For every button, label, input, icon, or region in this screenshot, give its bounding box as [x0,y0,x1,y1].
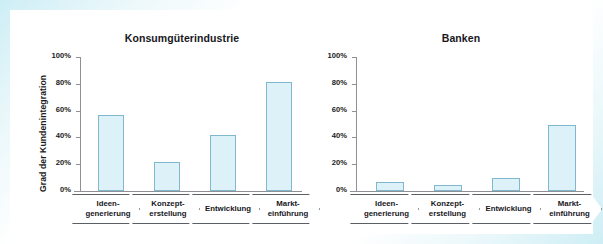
figure-frame: Konsumgüterindustrie Grad der Kundeninte… [0,0,603,244]
stage-label-left-1-line2: erstellung [149,209,186,219]
stage-label-left-3-line1: Markt- [268,199,309,209]
stage-label-right-0-line1: Ideen- [364,199,409,209]
y-tick-label-80-right: 80% [332,78,347,87]
stage-label-left-3-line2: einführung [268,209,309,219]
stage-chevron-right-3[interactable]: Markt- einführung [533,194,602,224]
stage-label-left-1-line1: Konzept- [149,199,186,209]
stage-label-right-2-line1: Entwicklung [486,204,532,214]
stage-chevron-right-0[interactable]: Ideen- generierung [350,194,419,224]
bar-right-2 [492,178,520,191]
y-tick-label-100-right: 100% [328,51,347,60]
process-stages-left: Ideen- generierung Konzept- erstellung E… [72,194,312,224]
y-tick-label-40-left: 40% [56,131,71,140]
bar-left-1 [154,162,180,191]
chart-panel-banken: Banken 100% 80% 60% 40% 20% [310,10,590,234]
y-tick-label-40-right: 40% [332,131,347,140]
chart-title-left: Konsumgüterindustrie [28,32,308,44]
y-tick-0-left: 0% [76,191,81,192]
y-tick-20-right: 20% [352,164,357,165]
y-axis-label-left: Grad der Kundenintegration [38,52,52,192]
process-stages-right: Ideen- generierung Konzept- erstellung E… [350,194,594,224]
stage-chevron-left-1[interactable]: Konzept- erstellung [132,194,200,224]
figure-canvas: Konsumgüterindustrie Grad der Kundeninte… [10,10,593,234]
y-tick-label-20-right: 20% [332,158,347,167]
y-tick-label-60-right: 60% [332,105,347,114]
x-axis-line-right [350,191,584,192]
y-tick-40-right: 40% [352,137,357,138]
stage-label-right-1-line1: Konzept- [429,199,466,209]
stage-label-left-0-line2: generierung [85,209,130,219]
plot-area-right: 100% 80% 60% 40% 20% 0% [356,57,576,191]
y-tick-80-right: 80% [352,84,357,85]
y-tick-60-right: 60% [352,111,357,112]
y-tick-60-left: 60% [76,111,81,112]
stage-label-right-3-line1: Markt- [549,199,590,209]
chart-title-right: Banken [310,32,590,44]
stage-label-right-1-line2: erstellung [429,209,466,219]
y-tick-label-0-right: 0% [336,185,347,194]
y-tick-label-80-left: 80% [56,78,71,87]
stage-chevron-left-0[interactable]: Ideen- generierung [72,194,140,224]
y-tick-0-right: 0% [352,191,357,192]
stage-chevron-right-1[interactable]: Konzept- erstellung [411,194,480,224]
y-tick-label-20-left: 20% [56,158,71,167]
y-axis-line-left [80,57,81,192]
x-axis-line-left [74,191,302,192]
stage-label-right-0-line2: generierung [364,209,409,219]
y-tick-label-0-left: 0% [60,185,71,194]
stage-label-right-3-line2: einführung [549,209,590,219]
bar-right-3 [548,125,576,191]
bar-left-2 [210,135,236,191]
y-tick-20-left: 20% [76,164,81,165]
y-axis-line-right [356,57,357,192]
bar-right-1 [434,185,462,191]
y-tick-80-left: 80% [76,84,81,85]
bar-left-3 [266,82,292,191]
y-tick-label-100-left: 100% [52,51,71,60]
plot-area-left: 100% 80% 60% 40% 20% 0% [80,57,294,191]
chart-panel-konsumgueterindustrie: Konsumgüterindustrie Grad der Kundeninte… [28,10,308,234]
y-tick-label-60-left: 60% [56,105,71,114]
bar-right-0 [376,182,404,191]
stage-label-left-0-line1: Ideen- [85,199,130,209]
stage-chevron-left-2[interactable]: Entwicklung [192,194,260,224]
y-tick-100-left: 100% [76,57,81,58]
stage-chevron-right-2[interactable]: Entwicklung [472,194,541,224]
bar-left-0 [98,115,124,191]
y-tick-100-right: 100% [352,57,357,58]
y-tick-40-left: 40% [76,137,81,138]
stage-label-left-2-line1: Entwicklung [205,204,251,214]
